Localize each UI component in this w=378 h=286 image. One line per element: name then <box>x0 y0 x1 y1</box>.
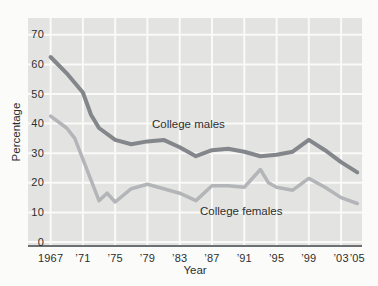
y-tick-label: 10 <box>0 206 44 219</box>
x-tick-label: ’05 <box>350 252 365 264</box>
x-tick-label: 1967 <box>38 252 63 264</box>
x-tick-label: ’79 <box>140 252 155 264</box>
x-tick-label: ’95 <box>269 252 284 264</box>
x-axis-title: Year <box>183 264 206 276</box>
x-tick-label: ’03 <box>333 252 348 264</box>
x-tick-label: ’71 <box>75 252 90 264</box>
y-tick-label: 30 <box>0 147 44 160</box>
plot-area <box>28 18 362 247</box>
y-tick-label: 50 <box>0 88 44 101</box>
line-chart-figure: Percentage Year 0102030405060701967’71’7… <box>0 0 378 286</box>
series-label-college-females: College females <box>200 205 282 217</box>
y-tick-label: 20 <box>0 176 44 189</box>
x-tick-label: ’99 <box>301 252 316 264</box>
x-tick-label: ’87 <box>204 252 219 264</box>
series-label-college-males: College males <box>152 118 225 130</box>
y-tick-label: 0 <box>0 236 44 249</box>
x-tick-label: ’75 <box>108 252 123 264</box>
x-tick-label: ’83 <box>172 252 187 264</box>
y-tick-label: 40 <box>0 117 44 130</box>
y-tick-label: 70 <box>0 28 44 41</box>
y-tick-label: 60 <box>0 58 44 71</box>
x-tick-label: ’91 <box>237 252 252 264</box>
